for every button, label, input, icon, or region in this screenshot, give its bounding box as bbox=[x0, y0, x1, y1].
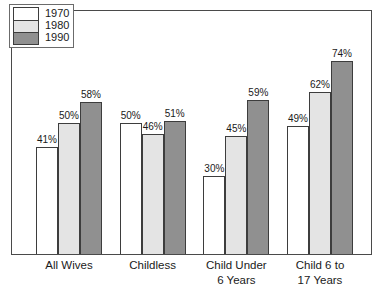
bar-rect bbox=[36, 147, 58, 254]
bar-value-label: 74% bbox=[332, 48, 352, 59]
chart-legend: 197019801990 bbox=[9, 4, 74, 48]
bar-value-label: 49% bbox=[288, 113, 308, 124]
bar-value-label: 58% bbox=[81, 89, 101, 100]
bar-value-label: 50% bbox=[59, 110, 79, 121]
bar-rect bbox=[331, 61, 353, 254]
bar-group: 50%46%51% bbox=[120, 11, 186, 254]
bar-value-label: 62% bbox=[310, 79, 330, 90]
legend-swatches bbox=[13, 7, 39, 45]
bar-1980: 46% bbox=[142, 11, 164, 254]
bar-value-label: 51% bbox=[165, 108, 185, 119]
legend-swatch-1990 bbox=[14, 32, 38, 44]
legend-swatch-1980 bbox=[14, 20, 38, 32]
category-axis-labels: All WivesChildlessChild Under 6 YearsChi… bbox=[11, 258, 372, 302]
bar-1970: 50% bbox=[120, 11, 142, 254]
bar-value-label: 45% bbox=[226, 123, 246, 134]
bar-1970: 30% bbox=[203, 11, 225, 254]
legend-swatch-1970 bbox=[14, 8, 38, 20]
bar-1990: 74% bbox=[331, 11, 353, 254]
bar-1980: 62% bbox=[309, 11, 331, 254]
bar-value-label: 41% bbox=[37, 134, 57, 145]
bar-rect bbox=[58, 123, 80, 254]
bar-value-label: 50% bbox=[121, 110, 141, 121]
bar-rect bbox=[164, 121, 186, 254]
category-label: Child 6 to 17 Years bbox=[265, 258, 375, 288]
bar-value-label: 46% bbox=[143, 121, 163, 132]
legend-labels: 197019801990 bbox=[45, 7, 69, 43]
bar-rect bbox=[203, 176, 225, 254]
bar-rect bbox=[142, 134, 164, 254]
bar-chart: 41%50%58%50%46%51%30%45%59%49%62%74% 197… bbox=[0, 0, 383, 303]
bar-value-label: 30% bbox=[204, 163, 224, 174]
bar-rect bbox=[80, 102, 102, 254]
legend-label-1990: 1990 bbox=[45, 31, 69, 43]
bar-1980: 45% bbox=[225, 11, 247, 254]
legend-label-1970: 1970 bbox=[45, 7, 69, 19]
bar-1990: 59% bbox=[247, 11, 269, 254]
bar-1970: 49% bbox=[287, 11, 309, 254]
bar-1990: 58% bbox=[80, 11, 102, 254]
bar-value-label: 59% bbox=[248, 87, 268, 98]
bar-rect bbox=[225, 136, 247, 254]
bar-group: 49%62%74% bbox=[287, 11, 353, 254]
bar-1990: 51% bbox=[164, 11, 186, 254]
bar-rect bbox=[120, 123, 142, 254]
bar-rect bbox=[309, 92, 331, 254]
legend-label-1980: 1980 bbox=[45, 19, 69, 31]
bar-group: 30%45%59% bbox=[203, 11, 269, 254]
bar-rect bbox=[247, 100, 269, 254]
bar-rect bbox=[287, 126, 309, 254]
